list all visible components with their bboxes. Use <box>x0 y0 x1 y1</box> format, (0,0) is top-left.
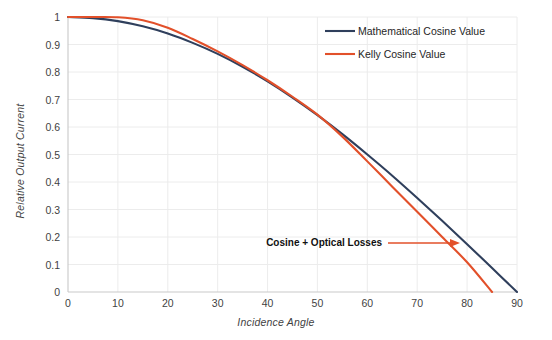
x-tick-label: 90 <box>497 297 537 309</box>
y-tick-label: 0.3 <box>20 204 60 216</box>
chart-container: Cosine + Optical Losses Mathematical Cos… <box>0 0 552 340</box>
x-tick-label: 10 <box>98 297 138 309</box>
x-tick-label: 50 <box>297 297 337 309</box>
y-tick-label: 0.1 <box>20 259 60 271</box>
x-tick-label: 70 <box>397 297 437 309</box>
line-chart: Cosine + Optical Losses Mathematical Cos… <box>0 0 552 340</box>
y-tick-label: 0.8 <box>20 66 60 78</box>
legend-label-mathematical-cosine: Mathematical Cosine Value <box>358 25 485 37</box>
x-tick-label: 40 <box>248 297 288 309</box>
y-tick-label: 0.4 <box>20 176 60 188</box>
y-tick-label: 0.6 <box>20 121 60 133</box>
y-tick-label: 0.7 <box>20 94 60 106</box>
x-tick-label: 0 <box>48 297 88 309</box>
y-tick-label: 0.5 <box>20 149 60 161</box>
x-tick-label: 30 <box>198 297 238 309</box>
x-tick-label: 60 <box>347 297 387 309</box>
y-axis-title: Relative Output Current <box>14 81 26 241</box>
x-axis-title: Incidence Angle <box>0 316 552 328</box>
legend-label-kelly-cosine: Kelly Cosine Value <box>358 48 446 60</box>
y-tick-label: 0.9 <box>20 39 60 51</box>
y-tick-label: 0.2 <box>20 231 60 243</box>
x-tick-label: 20 <box>148 297 188 309</box>
annotation-label: Cosine + Optical Losses <box>266 237 382 248</box>
x-tick-label: 80 <box>447 297 487 309</box>
y-tick-label: 1 <box>20 11 60 23</box>
